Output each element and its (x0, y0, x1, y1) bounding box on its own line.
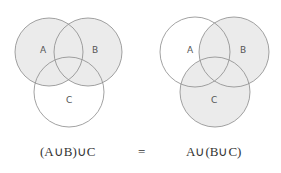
left-expression: (A∪B)∪C (40, 144, 95, 160)
right-label-a: A (187, 45, 194, 55)
left-label-c: C (66, 95, 72, 105)
equals-sign: = (138, 144, 145, 160)
left-venn: A B C (15, 18, 122, 127)
right-expression: A∪(B∪C) (186, 144, 241, 160)
right-label-c: C (211, 95, 217, 105)
left-label-b: B (92, 45, 98, 55)
right-label-b: B (240, 45, 246, 55)
left-label-a: A (40, 45, 47, 55)
right-venn: A B C (160, 17, 269, 127)
